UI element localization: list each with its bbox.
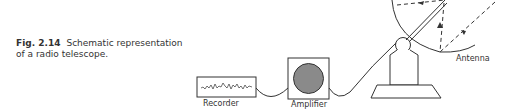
antenna-label: Antenna (456, 54, 490, 63)
cable-recorder-amplifier (256, 88, 288, 97)
recorder-label: Recorder (203, 99, 239, 108)
signal-rays (397, 0, 495, 52)
recorder-icon (197, 77, 256, 97)
amplifier-icon (288, 58, 329, 99)
amplifier-label: Amplifier (291, 100, 327, 109)
radio-telescope-diagram (0, 0, 506, 111)
antenna-base-icon (371, 85, 441, 98)
antenna-pedestal-icon (390, 50, 418, 85)
